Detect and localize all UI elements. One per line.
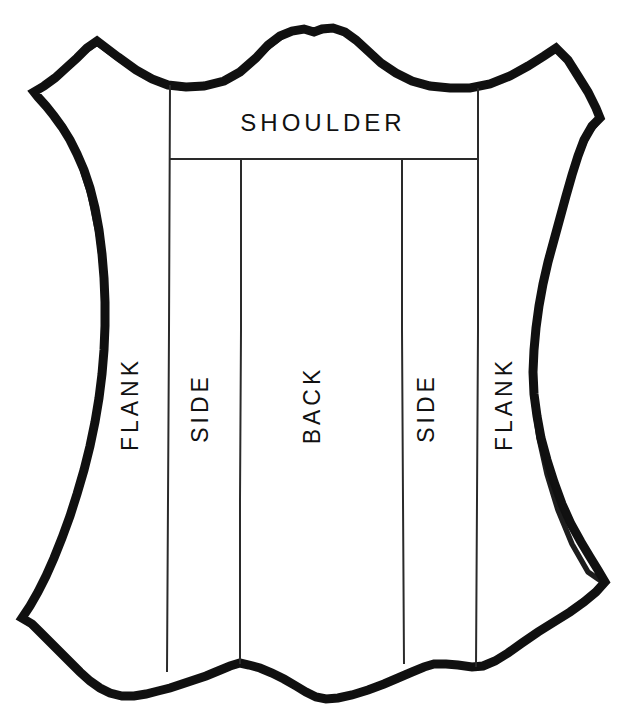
label-back: BACK [299,366,325,445]
label-flank-right: FLANK [491,357,517,451]
label-side-right: SIDE [413,373,439,443]
label-side-left: SIDE [187,373,213,443]
hide-outline-drawing: SHOULDER FLANK SIDE BACK SIDE FLANK [0,0,628,720]
division-line-side-left [240,159,241,664]
label-shoulder: SHOULDER [240,109,405,136]
hide-diagram: SHOULDER FLANK SIDE BACK SIDE FLANK [0,0,628,720]
label-flank-left: FLANK [117,357,143,451]
